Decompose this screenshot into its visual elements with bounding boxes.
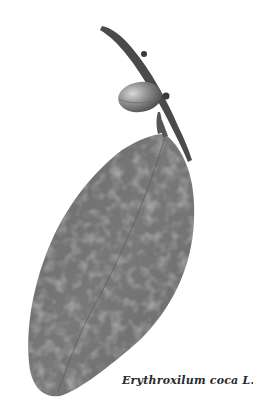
species-caption: Erythroxilum coca L. <box>122 374 253 387</box>
leaf <box>28 120 194 396</box>
coca-illustration <box>0 0 253 415</box>
